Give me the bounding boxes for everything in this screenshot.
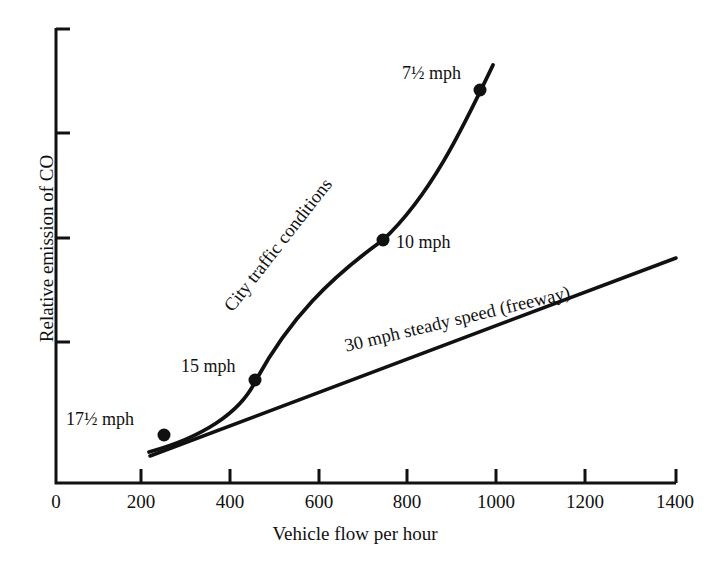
x-axis-ticks bbox=[141, 469, 676, 483]
x-tick-label-1400: 1400 bbox=[645, 492, 705, 511]
series-line-city-traffic bbox=[149, 65, 493, 452]
annotation-15-mph: 15 mph bbox=[181, 357, 236, 375]
data-point-17half bbox=[158, 429, 171, 442]
chart-plot-area bbox=[0, 0, 710, 566]
series-markers-city-traffic bbox=[158, 84, 487, 442]
x-tick-label-400: 400 bbox=[205, 492, 255, 511]
data-point-15 bbox=[249, 374, 262, 387]
y-axis-ticks bbox=[56, 29, 70, 342]
x-axis-title: Vehicle flow per hour bbox=[0, 524, 710, 543]
x-tick-label-600: 600 bbox=[294, 492, 344, 511]
x-tick-label-0: 0 bbox=[36, 492, 76, 511]
data-point-10 bbox=[377, 234, 390, 247]
annotation-17half-mph: 17½ mph bbox=[66, 410, 134, 428]
annotation-10-mph: 10 mph bbox=[396, 233, 451, 251]
x-tick-label-1000: 1000 bbox=[466, 492, 526, 511]
x-tick-label-800: 800 bbox=[382, 492, 432, 511]
data-point-7half bbox=[474, 84, 487, 97]
annotation-7half-mph: 7½ mph bbox=[402, 64, 461, 82]
y-axis-title: Relative emission of CO bbox=[37, 119, 56, 379]
axis-frame bbox=[56, 28, 676, 483]
x-tick-label-1200: 1200 bbox=[555, 492, 615, 511]
x-tick-label-200: 200 bbox=[116, 492, 166, 511]
chart-figure: 0 200 400 600 800 1000 1200 1400 Vehicle… bbox=[0, 0, 710, 566]
